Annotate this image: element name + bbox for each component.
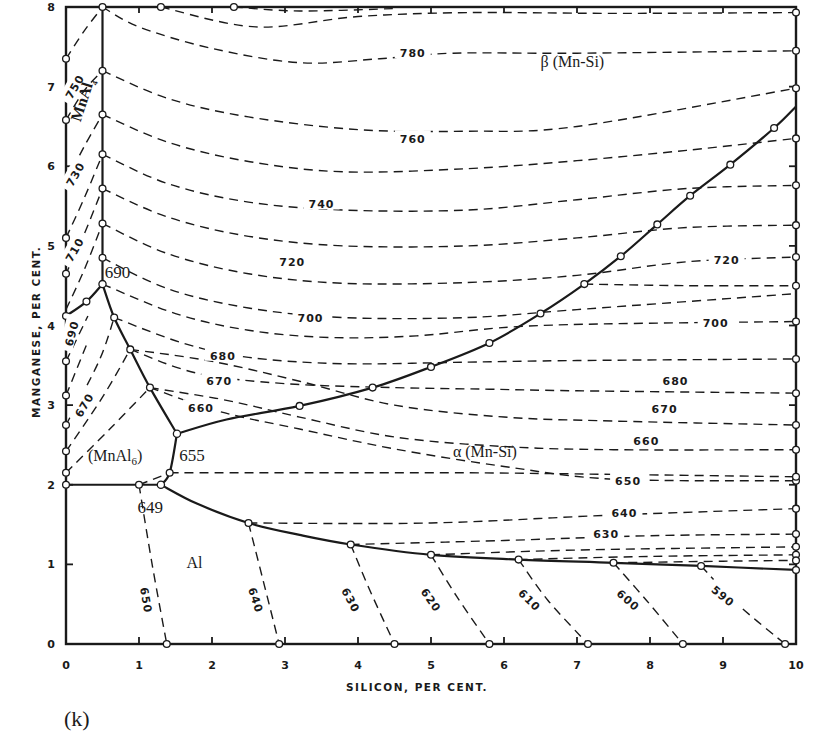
- data-point-marker: [793, 47, 800, 54]
- data-point-marker: [610, 559, 617, 566]
- isotherm-label: 670: [652, 403, 678, 416]
- y-tick-label: 5: [47, 240, 55, 253]
- region-label-al: Al: [186, 554, 203, 571]
- isotherm-line: [519, 555, 796, 560]
- isotherm-lines: [66, 7, 796, 644]
- region-labels: β (Mn-Si)α (Mn-Si)(MnAl6)AlMnAl4: [67, 53, 604, 572]
- data-point-marker: [793, 356, 800, 363]
- data-point-marker: [581, 281, 588, 288]
- data-point-marker: [793, 543, 800, 550]
- data-point-marker: [99, 220, 106, 227]
- isotherm-line: [103, 71, 797, 132]
- data-point-marker: [63, 270, 70, 277]
- x-tick-label: 9: [719, 659, 727, 672]
- isotherm-label: 680: [663, 375, 689, 388]
- x-axis-title: SILICON, PER CENT.: [346, 681, 488, 693]
- data-point-marker: [63, 469, 70, 476]
- invariant-point-marker: [157, 481, 164, 488]
- data-point-marker: [793, 446, 800, 453]
- isotherm-line: [170, 473, 796, 477]
- data-point-marker: [127, 346, 134, 353]
- isotherm-line: [584, 284, 796, 286]
- isotherm-label: 660: [633, 435, 659, 448]
- data-point-marker: [99, 254, 106, 261]
- data-point-marker: [782, 641, 789, 648]
- x-tick-label: 0: [62, 659, 70, 672]
- data-point-marker: [793, 557, 800, 564]
- phase-boundary-alpha-beta: [177, 107, 796, 434]
- data-point-marker: [793, 254, 800, 261]
- data-point-marker: [727, 161, 734, 168]
- isotherm-line: [139, 473, 170, 485]
- y-tick-label: 6: [47, 160, 55, 173]
- isotherm-label: 630: [338, 586, 362, 615]
- phase-boundary-mnal6-beta: [103, 284, 177, 434]
- isotherm-line: [103, 114, 797, 172]
- data-point-marker: [793, 390, 800, 397]
- data-point-marker: [63, 392, 70, 399]
- data-point-marker: [111, 314, 118, 321]
- data-point-marker: [585, 641, 592, 648]
- data-point-marker: [793, 422, 800, 429]
- y-axis-title: MANGANESE, PER CENT.: [30, 246, 42, 418]
- data-point-marker: [391, 641, 398, 648]
- y-tick-label: 4: [47, 320, 55, 333]
- isotherm-label: 630: [593, 528, 619, 541]
- data-point-marker: [99, 111, 106, 118]
- data-point-marker: [99, 4, 106, 11]
- data-point-marker: [245, 520, 252, 527]
- y-tick-label: 1: [47, 558, 55, 571]
- data-point-marker: [617, 253, 624, 260]
- isotherm-line: [103, 284, 797, 338]
- data-point-marker: [793, 182, 800, 189]
- region-label-alpha: α (Mn-Si): [453, 443, 517, 461]
- x-tick-label: 5: [427, 659, 435, 672]
- data-point-marker: [63, 55, 70, 62]
- y-tick-label: 2: [47, 479, 55, 492]
- tick-labels: 012345678910012345678: [47, 1, 804, 672]
- data-point-marker: [369, 384, 376, 391]
- isotherm-label: 660: [188, 402, 214, 415]
- x-tick-label: 10: [788, 659, 804, 672]
- isotherm-line: [66, 349, 130, 451]
- isotherm-line: [249, 509, 797, 524]
- isotherm-label: 760: [400, 133, 426, 146]
- isotherm-line: [103, 224, 797, 284]
- x-tick-label: 3: [281, 659, 289, 672]
- data-point-marker: [231, 4, 238, 11]
- data-point-marker: [793, 135, 800, 142]
- isotherm-label: 680: [210, 350, 236, 363]
- data-point-marker: [679, 641, 686, 648]
- x-tick-label: 6: [500, 659, 508, 672]
- data-point-marker: [687, 192, 694, 199]
- data-point-marker: [99, 185, 106, 192]
- data-point-marker: [654, 221, 661, 228]
- data-point-marker: [793, 85, 800, 92]
- data-point-marker: [698, 563, 705, 570]
- invariant-point-marker: [173, 430, 180, 437]
- isotherm-line: [351, 534, 796, 544]
- data-point-marker: [793, 318, 800, 325]
- data-point-marker: [428, 364, 435, 371]
- data-point-marker: [99, 67, 106, 74]
- isotherm-label: 700: [298, 312, 324, 325]
- panel-label: (k): [64, 706, 90, 731]
- isotherm-line: [150, 388, 796, 450]
- data-point-marker: [147, 384, 154, 391]
- invariant-point-label: 690: [105, 263, 131, 282]
- data-point-marker: [276, 641, 283, 648]
- x-tick-label: 1: [135, 659, 143, 672]
- data-point-marker: [771, 125, 778, 132]
- isotherm-label: 740: [309, 198, 335, 211]
- data-point-marker: [486, 340, 493, 347]
- data-point-marker: [537, 310, 544, 317]
- data-point-marker: [296, 403, 303, 410]
- data-point-marker: [347, 541, 354, 548]
- isotherm-line: [161, 7, 796, 27]
- data-point-marker: [515, 556, 522, 563]
- isotherm-line: [103, 7, 797, 63]
- phase-boundary-mnal6-alpha: [161, 434, 177, 485]
- data-point-marker: [63, 235, 70, 242]
- isotherm-label: 650: [615, 475, 641, 488]
- x-tick-label: 7: [573, 659, 581, 672]
